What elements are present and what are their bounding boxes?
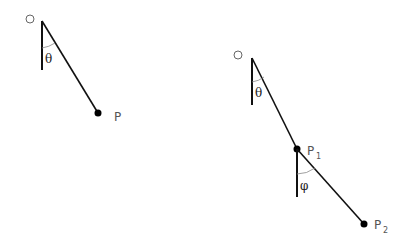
bob-p — [95, 110, 102, 117]
pendulum-rod — [42, 21, 98, 113]
upper-rod — [252, 58, 297, 149]
theta-label: θ — [45, 52, 52, 66]
bob-p-label: P — [114, 110, 121, 124]
bob-p2-label: P — [374, 218, 381, 232]
phi-arc — [297, 168, 315, 174]
bob-p2 — [361, 221, 368, 228]
theta-label-2: θ — [255, 86, 262, 100]
bob-p1-subscript: 1 — [316, 152, 321, 161]
double-pendulum: θ P 1 φ P 2 — [234, 51, 388, 235]
bob-p2-subscript: 2 — [383, 226, 388, 235]
phi-label: φ — [300, 179, 308, 193]
simple-pendulum: θ P — [26, 15, 121, 124]
pivot-o-marker — [26, 15, 34, 23]
theta-arc — [42, 43, 55, 48]
pendulum-diagram: θ P θ P 1 φ P 2 — [0, 0, 404, 245]
bob-p1-label: P — [307, 144, 314, 158]
pivot-o-marker-2 — [234, 51, 242, 59]
